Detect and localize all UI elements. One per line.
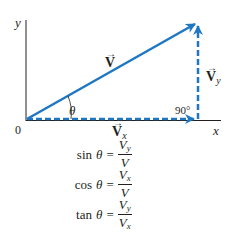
x-axis-label: x: [213, 124, 219, 137]
vector-vy-label: → Vy: [206, 70, 221, 86]
right-angle-label: 90°: [175, 105, 190, 116]
origin-label: 0: [15, 124, 21, 136]
fraction: Vy Vx: [118, 198, 132, 231]
theta-label: θ: [69, 104, 75, 117]
vector-v: [27, 24, 195, 119]
y-axis-label: y: [15, 16, 21, 29]
equation-tan: tan θ = Vy Vx: [50, 198, 132, 231]
vector-arrow-icon: →: [113, 118, 123, 128]
vector-arrow-icon: →: [106, 49, 116, 59]
vector-arrow-icon: →: [207, 63, 217, 73]
vector-v-label: → V: [105, 56, 115, 70]
